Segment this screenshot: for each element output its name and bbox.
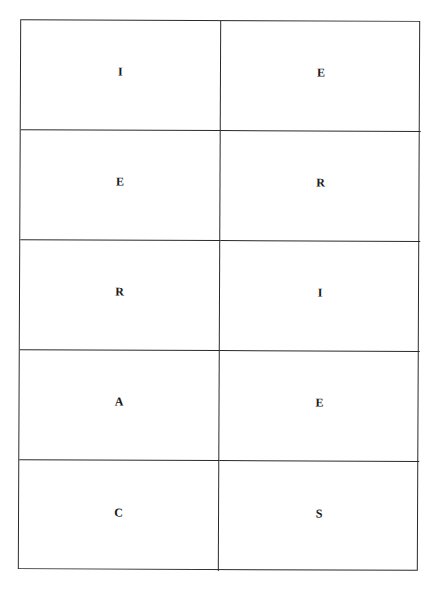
- grid-cell-r4-c1: A: [19, 350, 219, 461]
- grid-cell-r2-c2: R: [220, 131, 420, 242]
- cell-letter: I: [318, 285, 323, 300]
- grid-cell-r3-c1: R: [20, 240, 220, 351]
- cell-letter: S: [316, 506, 323, 521]
- cell-letter: R: [316, 175, 325, 190]
- grid-cell-r4-c2: E: [219, 351, 419, 462]
- letter-grid: I E E R R I A E C S: [18, 19, 420, 571]
- cell-letter: I: [118, 65, 123, 80]
- cell-letter: C: [114, 505, 123, 520]
- cell-letter: E: [317, 65, 325, 80]
- grid-cell-r3-c2: I: [220, 241, 420, 352]
- grid-cell-r1-c1: I: [21, 20, 221, 131]
- cell-letter: E: [315, 395, 323, 410]
- grid-cell-r5-c1: C: [19, 460, 219, 571]
- cell-letter: R: [115, 285, 124, 300]
- grid-cell-r1-c2: E: [221, 21, 421, 132]
- cell-letter: A: [115, 395, 124, 410]
- cell-letter: E: [116, 175, 124, 190]
- grid-cell-r5-c2: S: [219, 461, 419, 572]
- grid-cell-r2-c1: E: [20, 130, 220, 241]
